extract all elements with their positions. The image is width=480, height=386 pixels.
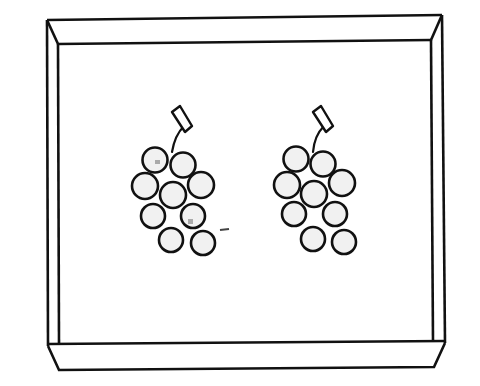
grape [191,231,215,255]
grape [284,147,309,172]
grape-bunch-right [274,106,356,254]
pencil-mark [220,229,229,230]
grape [323,202,347,226]
grape-stem-tab [313,106,333,132]
grape [188,172,214,198]
tray-top-rim [47,15,442,20]
tray-bottom-inner-edge [48,341,445,344]
tray [47,15,445,370]
grape [332,230,356,254]
grape [282,202,306,226]
tray-corner-top-right [431,15,442,40]
tray-front-lip [48,343,445,370]
grape [301,181,327,207]
tray-left-inner-side [58,44,59,344]
tray-illustration [0,0,480,386]
grape [329,170,355,196]
tray-right-inner-side [431,40,433,342]
grape [171,153,196,178]
tray-corner-top-left [47,20,58,44]
grape [132,173,158,199]
tray-left-outer-side [47,20,48,346]
grape [141,204,165,228]
grape-stem-tab [172,106,192,132]
grape [160,182,186,208]
grape-bunch-left [132,106,229,255]
grape [159,228,183,252]
grape-stem [172,126,184,152]
grape-shading [188,219,193,224]
tray-top-inner-edge [58,40,431,44]
grape [311,152,336,177]
grape-shading [155,160,160,164]
grape-stem [313,126,324,152]
grape [301,227,325,251]
grape [181,204,205,228]
grape [274,172,300,198]
tray-right-outer-side [442,15,445,343]
